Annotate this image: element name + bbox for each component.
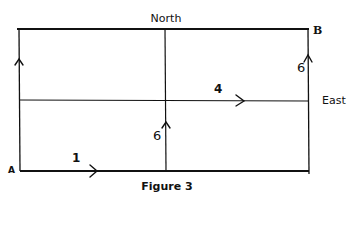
- segment-label-6-middle: 6: [153, 128, 161, 143]
- east-label: East: [322, 94, 346, 107]
- point-a-label: A: [8, 165, 15, 175]
- point-b-label: B: [313, 24, 322, 37]
- segment-label-6-right: 6: [297, 60, 305, 75]
- grid-path-diagram: North East A B 1 6 4 6 Figure 3: [0, 0, 351, 226]
- segment-label-1: 1: [72, 151, 80, 165]
- right-edge: [308, 29, 309, 174]
- grid-outline: [17, 29, 309, 174]
- middle-horizontal-line: [19, 100, 308, 101]
- north-label: North: [151, 12, 182, 25]
- figure-caption: Figure 3: [141, 180, 192, 193]
- segment-label-4: 4: [214, 82, 222, 96]
- arrows: [15, 55, 312, 177]
